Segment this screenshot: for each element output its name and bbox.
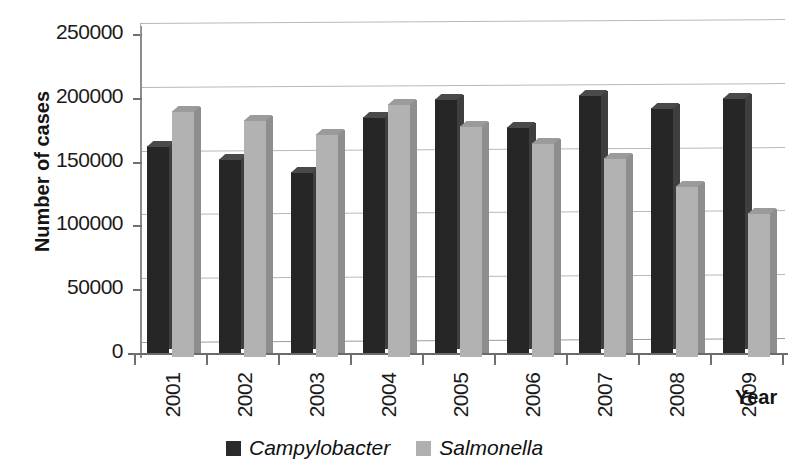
depth-edge bbox=[140, 23, 141, 36]
chart-legend: CampylobacterSalmonella bbox=[226, 436, 543, 460]
bar-face bbox=[532, 143, 554, 357]
bar-group-2005 bbox=[435, 352, 482, 353]
bar-face bbox=[291, 172, 313, 353]
bar-salmonella-2009 bbox=[748, 213, 770, 357]
bar-group-2007 bbox=[579, 352, 626, 353]
bar-salmonella-2005 bbox=[460, 126, 482, 357]
bar-side bbox=[338, 130, 345, 353]
bar-group-2006 bbox=[507, 352, 554, 353]
y-axis-tick-labels: 050000100000150000200000250000 bbox=[10, 0, 123, 470]
bar-group-2008 bbox=[651, 352, 698, 353]
bar-salmonella-2002 bbox=[244, 120, 266, 357]
y-tick-label: 200000 bbox=[13, 84, 123, 108]
bar-side bbox=[698, 182, 705, 353]
bar-side bbox=[266, 116, 273, 353]
dark-square-swatch bbox=[226, 441, 241, 456]
bar-side bbox=[194, 107, 201, 353]
bar-face bbox=[723, 98, 745, 353]
legend-item-campylobacter[interactable]: Campylobacter bbox=[226, 436, 390, 460]
x-axis-title: Year bbox=[735, 386, 777, 409]
bar-side bbox=[626, 154, 633, 353]
bar-face bbox=[435, 99, 457, 353]
bar-face bbox=[363, 117, 385, 353]
bar-side bbox=[410, 100, 417, 353]
bar-salmonella-2006 bbox=[532, 143, 554, 357]
bar-group-2009 bbox=[723, 352, 770, 353]
bar-salmonella-2007 bbox=[604, 158, 626, 357]
y-tick-label: 100000 bbox=[13, 211, 123, 235]
bar-face bbox=[460, 126, 482, 357]
plot-area bbox=[140, 8, 788, 358]
x-tick-label: 2006 bbox=[521, 363, 545, 427]
bar-campylobacter-2009 bbox=[723, 98, 745, 353]
bar-chart: Number of cases 050000100000150000200000… bbox=[0, 0, 812, 470]
legend-item-salmonella[interactable]: Salmonella bbox=[416, 436, 543, 460]
x-tick-label: 2001 bbox=[161, 363, 185, 427]
bar-campylobacter-2003 bbox=[291, 172, 313, 353]
y-tick-label: 250000 bbox=[13, 20, 123, 44]
bar-face bbox=[676, 186, 698, 357]
bar-face bbox=[147, 146, 169, 353]
bar-campylobacter-2001 bbox=[147, 146, 169, 353]
bar-face bbox=[316, 134, 338, 357]
bar-campylobacter-2007 bbox=[579, 95, 601, 353]
bar-group-2002 bbox=[219, 352, 266, 353]
y-tick-mark bbox=[133, 289, 142, 291]
bar-side bbox=[482, 122, 489, 353]
bar-face bbox=[748, 213, 770, 357]
bar-face bbox=[651, 108, 673, 353]
y-axis-line bbox=[140, 26, 142, 358]
legend-label: Salmonella bbox=[439, 436, 543, 460]
x-axis-tick-labels: 200120022003200420052006200720082009 bbox=[140, 362, 800, 432]
bar-group-2004 bbox=[363, 352, 410, 353]
gridline bbox=[140, 19, 785, 24]
y-tick-label: 150000 bbox=[13, 148, 123, 172]
y-tick-mark bbox=[133, 162, 142, 164]
bar-salmonella-2008 bbox=[676, 186, 698, 357]
bar-group-2001 bbox=[147, 352, 194, 353]
bar-face bbox=[388, 104, 410, 357]
x-tick-label: 2007 bbox=[593, 363, 617, 427]
x-tick-label: 2004 bbox=[377, 363, 401, 427]
bar-salmonella-2004 bbox=[388, 104, 410, 357]
bar-face bbox=[172, 111, 194, 357]
y-tick-mark bbox=[133, 225, 142, 227]
x-tick-mark bbox=[134, 354, 136, 365]
bar-campylobacter-2002 bbox=[219, 159, 241, 353]
y-tick-label: 0 bbox=[13, 339, 123, 363]
bar-side bbox=[770, 209, 777, 353]
y-tick-label: 50000 bbox=[13, 275, 123, 299]
bar-group-2003 bbox=[291, 352, 338, 353]
bar-campylobacter-2006 bbox=[507, 127, 529, 353]
bar-salmonella-2003 bbox=[316, 134, 338, 357]
y-tick-mark bbox=[133, 98, 142, 100]
bar-face bbox=[244, 120, 266, 357]
bar-face bbox=[604, 158, 626, 357]
bar-face bbox=[507, 127, 529, 353]
bar-face bbox=[579, 95, 601, 353]
bar-face bbox=[219, 159, 241, 353]
x-tick-label: 2008 bbox=[665, 363, 689, 427]
x-tick-label: 2005 bbox=[449, 363, 473, 427]
bar-salmonella-2001 bbox=[172, 111, 194, 357]
x-tick-label: 2003 bbox=[305, 363, 329, 427]
bar-campylobacter-2004 bbox=[363, 117, 385, 353]
light-square-swatch bbox=[416, 441, 431, 456]
bar-campylobacter-2008 bbox=[651, 108, 673, 353]
bar-side bbox=[554, 139, 561, 353]
bar-campylobacter-2005 bbox=[435, 99, 457, 353]
gridline bbox=[140, 83, 785, 88]
legend-label: Campylobacter bbox=[249, 436, 390, 460]
x-tick-label: 2002 bbox=[233, 363, 257, 427]
